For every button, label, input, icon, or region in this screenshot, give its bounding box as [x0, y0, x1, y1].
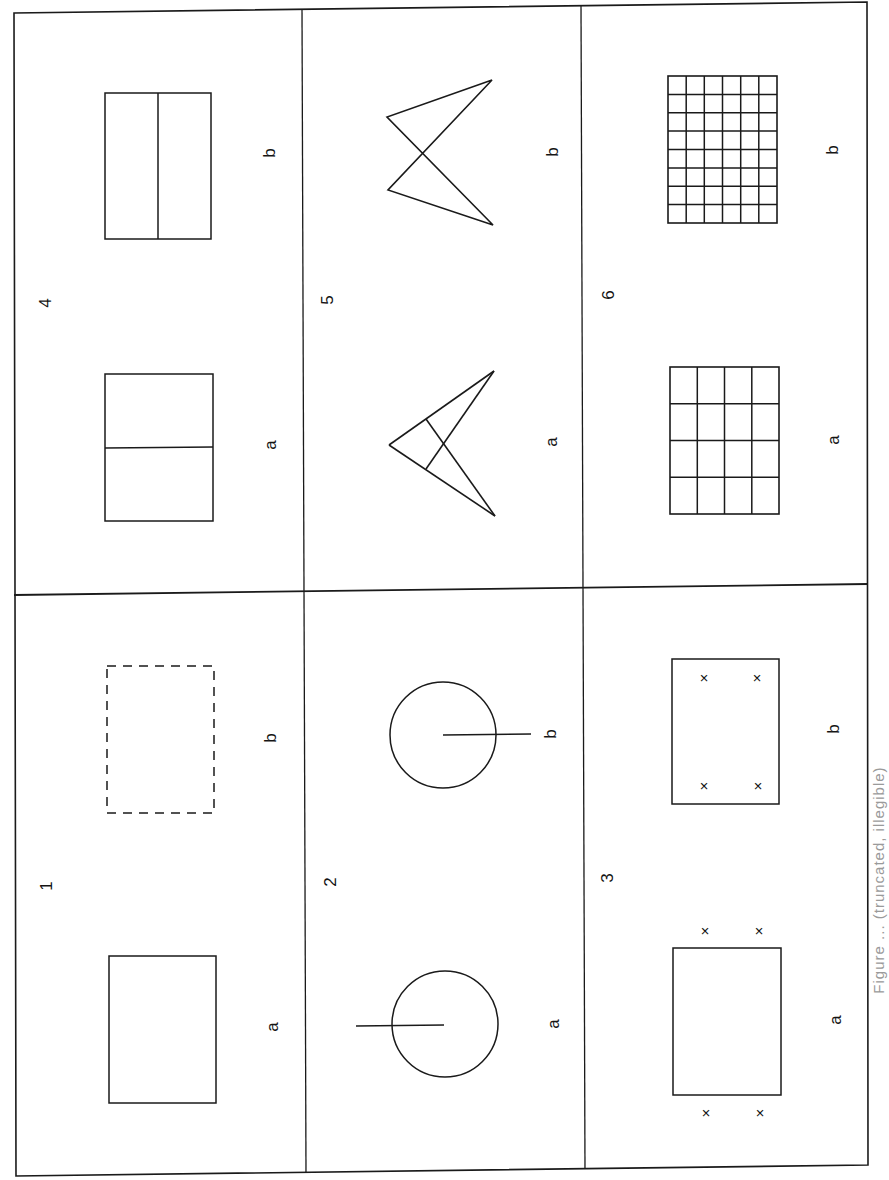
panel-number-3: 3: [599, 873, 616, 882]
panel-1-label-a: a: [264, 1022, 281, 1031]
panel-2-label-b: b: [542, 729, 559, 738]
panel-2: [356, 682, 531, 1077]
x-mark-icon: ×: [752, 1109, 767, 1118]
panel-3a-rect-x-outside: [673, 948, 781, 1095]
panel-6: [668, 76, 779, 514]
panel-4: [105, 93, 213, 521]
panel-number-2: 2: [322, 877, 339, 886]
x-mark-icon: ×: [751, 927, 766, 936]
x-mark-icon: ×: [749, 674, 764, 683]
panel-5-label-a: a: [543, 437, 560, 446]
panel-5-label-b: b: [544, 147, 561, 156]
x-mark-icon: ×: [698, 1109, 713, 1118]
figure-caption: Figure ... (truncated, illegible): [870, 766, 887, 993]
panel-number-1: 1: [38, 881, 55, 890]
figure-drawing: [0, 0, 889, 1180]
panel-6-label-b: b: [824, 145, 841, 154]
panel-3-label-b: b: [825, 724, 842, 733]
panel-2b-circle-line-out-right: [390, 682, 531, 788]
panel-1-label-b: b: [262, 733, 279, 742]
panel-number-5: 5: [319, 295, 336, 304]
panel-3: [672, 659, 781, 1095]
panel-5a-arrowhead: [389, 371, 495, 516]
panel-2a-circle-line-out-left: [356, 971, 498, 1077]
x-mark-icon: ×: [750, 782, 765, 791]
panel-1a-solid-rect: [109, 956, 216, 1103]
panel-2-label-a: a: [545, 1019, 562, 1028]
panel-4-label-a: a: [262, 440, 279, 449]
panel-1: [107, 666, 216, 1103]
x-mark-icon: ×: [696, 782, 711, 791]
panel-1b-dashed-rect: [107, 666, 214, 813]
panel-5b-crossed-zigzag: [387, 80, 493, 225]
panel-6b-grid-6x8: [668, 76, 777, 223]
x-mark-icon: ×: [696, 674, 711, 683]
panel-number-4: 4: [37, 298, 54, 307]
panel-number-6: 6: [600, 290, 617, 299]
horizontal-divider: [14, 584, 868, 595]
panel-4b-rect-vertical-split: [105, 93, 211, 239]
panel-6a-grid-4x4: [670, 367, 779, 514]
figure: × × × × × × × × 4 5 6 1 2 3 b a b a b a …: [0, 0, 889, 1180]
panel-5: [387, 80, 495, 516]
x-mark-icon: ×: [697, 927, 712, 936]
panel-4a-rect-horizontal-split: [105, 374, 213, 521]
panel-3-label-a: a: [827, 1015, 844, 1024]
panel-6-label-a: a: [825, 435, 842, 444]
panel-4-label-b: b: [261, 148, 278, 157]
